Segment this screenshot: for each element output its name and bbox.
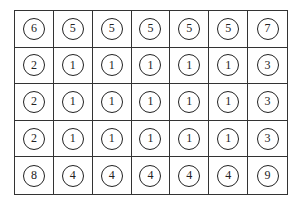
grid-cell: 4 [209,157,248,194]
grid-cell: 1 [54,48,93,85]
grid-cell: 5 [54,11,93,48]
grid-cell: 1 [170,48,209,85]
circled-number: 1 [101,128,123,150]
circled-number: 5 [62,18,84,40]
grid-cell: 9 [248,157,287,194]
circled-number: 1 [62,91,84,113]
grid-cell: 5 [170,11,209,48]
circled-number: 1 [139,54,161,76]
circled-number: 3 [257,128,279,150]
grid-cell: 2 [15,48,54,85]
circled-number: 2 [23,91,45,113]
circled-number: 1 [217,91,239,113]
grid-cell: 4 [132,157,171,194]
circled-number: 1 [101,54,123,76]
circled-number: 3 [257,91,279,113]
grid-cell: 1 [209,84,248,121]
grid-cell: 6 [15,11,54,48]
circled-number: 5 [217,18,239,40]
grid-cell: 2 [15,84,54,121]
circled-number: 1 [139,128,161,150]
grid-cell: 1 [209,121,248,158]
grid-cell: 5 [132,11,171,48]
circled-number: 3 [257,54,279,76]
grid-cell: 7 [248,11,287,48]
grid-cell: 3 [248,48,287,85]
circled-number: 1 [62,54,84,76]
circled-number: 1 [217,128,239,150]
grid-cell: 2 [15,121,54,158]
circled-number: 4 [178,165,200,187]
grid-cell: 4 [170,157,209,194]
grid-cell: 1 [93,84,132,121]
circled-number: 1 [178,54,200,76]
circled-number: 4 [101,165,123,187]
grid-cell: 1 [209,48,248,85]
circled-number: 1 [101,91,123,113]
circled-number: 4 [62,165,84,187]
circled-number: 1 [178,91,200,113]
circled-number: 5 [178,18,200,40]
circled-number: 7 [257,18,279,40]
grid-cell: 1 [54,84,93,121]
grid-cell: 1 [93,48,132,85]
circled-number: 1 [62,128,84,150]
grid-cell: 1 [170,84,209,121]
circled-number: 8 [23,165,45,187]
grid-cell: 5 [93,11,132,48]
grid-cell: 5 [209,11,248,48]
circled-number: 1 [178,128,200,150]
circled-number: 1 [217,54,239,76]
grid-cell: 1 [54,121,93,158]
circled-number: 5 [101,18,123,40]
grid-cell: 8 [15,157,54,194]
circled-number: 5 [139,18,161,40]
grid-cell: 1 [132,121,171,158]
circled-number: 6 [23,18,45,40]
grid-cell: 1 [170,121,209,158]
circled-number: 4 [217,165,239,187]
circled-number: 1 [139,91,161,113]
circled-number: 2 [23,54,45,76]
circled-number: 2 [23,128,45,150]
grid-cell: 1 [132,84,171,121]
grid-cell: 3 [248,121,287,158]
grid-cell: 1 [132,48,171,85]
grid-cell: 4 [93,157,132,194]
grid-cell: 1 [93,121,132,158]
circled-number: 9 [257,165,279,187]
grid-cell: 4 [54,157,93,194]
number-grid: 65555572111113211111321111138444449 [14,10,288,195]
grid-cell: 3 [248,84,287,121]
circled-number: 4 [139,165,161,187]
